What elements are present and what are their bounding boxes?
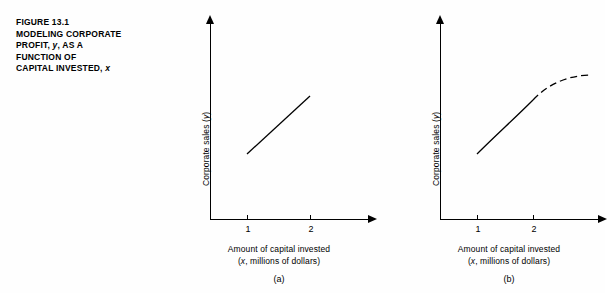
x-tick-2-b — [533, 215, 534, 220]
x-axis-label-line2-a: (x, millions of dollars) — [238, 256, 320, 266]
y-axis-label-b: Corporate sales (y) — [431, 112, 441, 186]
x-ticklabel-1-b: 1 — [468, 224, 488, 234]
x-axis-b — [440, 219, 598, 220]
panel-sublabel-a: (a) — [259, 274, 299, 284]
figure-number: FIGURE 13.1 — [16, 17, 151, 29]
x-tick-1-a — [247, 215, 248, 220]
x-axis-label-line2-b: (x, millions of dollars) — [468, 256, 550, 266]
x-axis-a — [210, 219, 368, 220]
x-axis-label-a: Amount of capital invested (x, millions … — [179, 243, 379, 267]
x-axis-arrow-a — [368, 215, 377, 223]
caption-line-4: CAPITAL INVESTED, x — [16, 63, 151, 75]
caption-line-1: MODELING CORPORATE — [16, 29, 151, 41]
x-ticklabel-2-a: 2 — [301, 224, 321, 234]
x-tick-2-a — [310, 215, 311, 220]
y-axis-arrow-b — [436, 15, 444, 24]
panel-sublabel-b: (b) — [489, 274, 529, 284]
observed-curve-b — [477, 100, 533, 154]
x-ticklabel-2-b: 2 — [524, 224, 544, 234]
x-ticklabel-1-a: 1 — [238, 224, 258, 234]
x-axis-label-b: Amount of capital invested (x, millions … — [409, 243, 609, 267]
panel-b: Corporate sales (y) 1 2 Amount of capita… — [385, 8, 611, 288]
y-axis-arrow-a — [206, 15, 214, 24]
caption-line-2: PROFIT, y, AS A — [16, 40, 151, 52]
extrapolated-curve-b — [533, 75, 589, 100]
y-axis-label-a: Corporate sales (y) — [201, 112, 211, 186]
panel-a: Corporate sales (y) 1 2 Amount of capita… — [155, 8, 385, 288]
x-axis-arrow-b — [598, 215, 607, 223]
x-axis-label-line1-a: Amount of capital invested — [228, 244, 330, 254]
x-axis-label-line1-b: Amount of capital invested — [458, 244, 560, 254]
figure-caption: FIGURE 13.1 MODELING CORPORATE PROFIT, y… — [16, 17, 151, 75]
caption-line-3: FUNCTION OF — [16, 52, 151, 64]
x-tick-1-b — [477, 215, 478, 220]
